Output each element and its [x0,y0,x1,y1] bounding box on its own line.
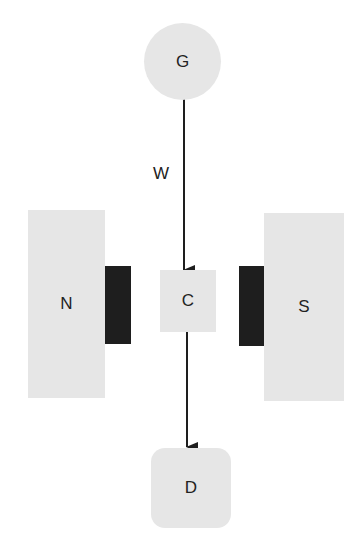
node-s: S [264,213,344,401]
node-c: C [160,270,216,332]
pole-face-s [239,266,264,346]
node-s-label: S [298,297,309,317]
pole-face-n [105,266,131,344]
node-d-label: D [185,478,197,498]
node-g: G [144,23,221,100]
edge-label-w: W [153,164,169,184]
node-n-label: N [60,294,72,314]
node-d: D [151,448,231,528]
node-n: N [28,210,105,398]
node-c-label: C [182,291,194,311]
node-g-label: G [176,52,189,72]
